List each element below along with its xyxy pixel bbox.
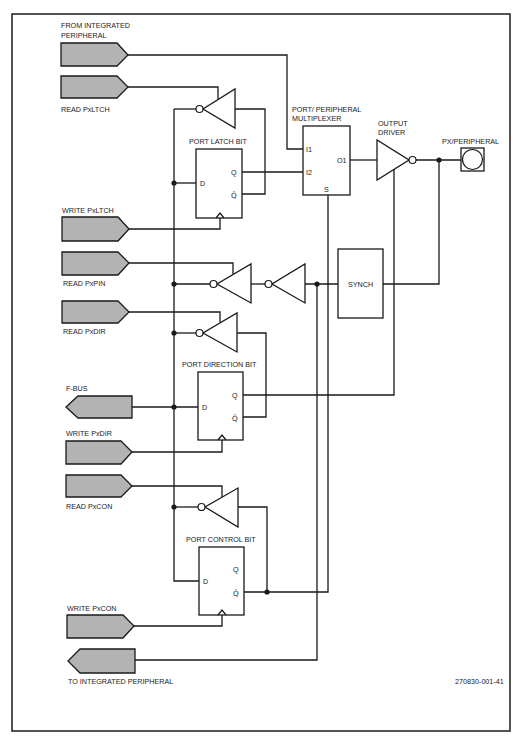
port-direction-bit: PORT DIRECTION BIT D Q Q̄ bbox=[182, 360, 257, 440]
pin-qbar: Q̄ bbox=[232, 414, 238, 423]
tristate-buffer-icon bbox=[203, 89, 235, 128]
signal-f-bus: F-BUS bbox=[66, 384, 198, 418]
input-connector-icon bbox=[62, 217, 129, 241]
output-driver-title-line1: OUTPUT bbox=[378, 119, 408, 128]
output-driver-buffer-icon bbox=[377, 140, 409, 180]
label-from-integrated-peripheral-line1: FROM INTEGRATED bbox=[61, 21, 130, 30]
input-buffer-icon bbox=[272, 264, 305, 303]
label-write-pxdir: WRITE PxDIR bbox=[66, 429, 112, 438]
pad-label: PX/PERIPHERAL bbox=[442, 137, 499, 146]
inversion-bubble-icon bbox=[196, 330, 203, 337]
synch-label: SYNCH bbox=[348, 280, 373, 289]
port-logic-diagram: FROM INTEGRATED PERIPHERAL READ PxLTCH P… bbox=[0, 0, 523, 739]
pin-d: D bbox=[202, 403, 207, 412]
inversion-bubble-icon bbox=[409, 157, 416, 164]
pin-i2: I2 bbox=[306, 168, 312, 177]
label-read-pxdir: READ PxDIR bbox=[63, 327, 106, 336]
input-connector-icon bbox=[62, 301, 129, 323]
label-f-bus: F-BUS bbox=[66, 384, 88, 393]
label-read-pxltch: READ PxLTCH bbox=[61, 105, 110, 114]
port-latch-bit: PORT LATCH BIT D Q Q̄ bbox=[171, 137, 303, 218]
input-connector-icon bbox=[66, 475, 132, 497]
wire-pad-to-synch bbox=[383, 160, 439, 284]
pin-qbar: Q̄ bbox=[233, 589, 239, 598]
junction-dot bbox=[171, 330, 176, 335]
pin-d: D bbox=[200, 179, 205, 188]
junction-dot bbox=[171, 504, 176, 509]
wire-select-from-control bbox=[244, 195, 328, 592]
output-driver-title-line2: DRIVER bbox=[378, 128, 405, 137]
multiplexer-title-line1: PORT/ PERIPHERAL bbox=[292, 105, 361, 114]
pin-d: D bbox=[203, 577, 208, 586]
synch-block: SYNCH bbox=[135, 249, 383, 660]
multiplexer-title-line2: MULTIPLEXER bbox=[292, 114, 341, 123]
pin-o1: O1 bbox=[337, 156, 347, 165]
port-peripheral-multiplexer: PORT/ PERIPHERAL MULTIPLEXER I1 I2 O1 S bbox=[244, 105, 377, 592]
junction-dot bbox=[264, 589, 269, 594]
label-from-integrated-peripheral-line2: PERIPHERAL bbox=[61, 31, 107, 40]
tristate-buffer-icon bbox=[217, 264, 251, 303]
inversion-bubble-icon bbox=[198, 504, 205, 511]
wire-write-pxcon-clock bbox=[134, 615, 222, 626]
wire-read-pxltch-enable bbox=[128, 87, 218, 99]
junction-dot bbox=[171, 281, 176, 286]
junction-dot bbox=[171, 404, 176, 409]
pad-circle-icon bbox=[463, 150, 483, 170]
input-connector-icon bbox=[61, 43, 128, 66]
input-connector-icon bbox=[67, 615, 134, 638]
pin-i1: I1 bbox=[306, 145, 312, 154]
label-write-pxltch: WRITE PxLTCH bbox=[62, 206, 114, 215]
junction-dot bbox=[171, 180, 176, 185]
pin-q: Q bbox=[231, 168, 237, 177]
signal-to-integrated-peripheral: TO INTEGRATED PERIPHERAL bbox=[68, 649, 173, 686]
label-read-pxcon: READ PxCON bbox=[66, 502, 112, 511]
wire-write-pxdir-clock bbox=[132, 440, 222, 452]
port-control-bit-title: PORT CONTROL BIT bbox=[186, 535, 256, 544]
label-write-pxcon: WRITE PxCON bbox=[67, 604, 117, 613]
pin-q: Q bbox=[232, 391, 238, 400]
bidirectional-connector-icon bbox=[66, 396, 132, 418]
output-connector-icon bbox=[68, 649, 135, 673]
inversion-bubble-icon bbox=[196, 106, 203, 113]
internal-data-bus bbox=[174, 109, 199, 581]
signal-read-pxpin: READ PxPIN bbox=[62, 252, 251, 303]
pin-q: Q bbox=[233, 565, 239, 574]
figure-id-label: 270830-001-41 bbox=[455, 677, 504, 686]
port-direction-bit-title: PORT DIRECTION BIT bbox=[182, 360, 257, 369]
pin-qbar: Q̄ bbox=[231, 191, 237, 200]
wire-read-pxcon-enable bbox=[132, 486, 222, 497]
input-connector-icon bbox=[66, 441, 132, 464]
port-latch-bit-title: PORT LATCH BIT bbox=[189, 137, 248, 146]
inversion-bubble-icon bbox=[210, 281, 217, 288]
label-read-pxpin: READ PxPIN bbox=[63, 279, 105, 288]
pin-s: S bbox=[324, 185, 329, 194]
wire-read-pxpin-enable bbox=[129, 263, 233, 274]
label-to-integrated-peripheral: TO INTEGRATED PERIPHERAL bbox=[68, 677, 173, 686]
input-connector-icon bbox=[62, 252, 129, 275]
inversion-bubble-icon bbox=[265, 281, 272, 288]
input-connector-icon bbox=[61, 76, 128, 98]
port-control-bit: PORT CONTROL BIT D Q Q̄ bbox=[186, 535, 256, 615]
